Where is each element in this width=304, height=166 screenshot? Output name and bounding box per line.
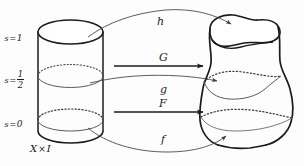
codomain-bottom-edge — [218, 145, 266, 148]
level-value-s-top: 1 — [17, 33, 23, 43]
domain-label-times: × — [37, 144, 47, 154]
level-rel-s-middle: = — [9, 76, 17, 85]
codomain-top-cap — [210, 15, 280, 46]
domain-cylinder — [38, 20, 103, 143]
map-label-F: F — [159, 98, 167, 109]
cylinder-bottom-section-front — [38, 120, 103, 131]
arrow-f — [88, 128, 226, 152]
map-label-h: h — [157, 16, 164, 27]
diagram-canvas — [0, 0, 304, 166]
map-label-G: G — [159, 52, 168, 63]
level-fraction-s-middle: 1 2 — [17, 70, 24, 89]
level-rel-s-bottom: = — [9, 120, 17, 129]
fraction-denominator: 2 — [17, 81, 24, 90]
codomain-bottom-section-back — [201, 109, 292, 118]
domain-label: X×I — [30, 144, 51, 154]
level-value-s-bottom: 0 — [17, 119, 23, 129]
level-label-s-bottom: s=0 — [4, 120, 23, 129]
map-label-g: g — [160, 84, 167, 95]
arrow-g — [90, 75, 217, 83]
cylinder-bottom-section-back — [38, 109, 103, 120]
codomain-mid-section-front — [204, 76, 281, 99]
level-rel-s-top: = — [9, 34, 17, 43]
cylinder-mid-section-front — [38, 76, 103, 87]
cylinder-base-front — [38, 131, 103, 143]
cylinder-mid-section-back — [38, 65, 103, 76]
level-label-s-top: s=1 — [4, 34, 23, 43]
map-label-f: f — [161, 134, 165, 145]
homotopy-diagram: s=1 s= 1 2 s=0 X×I h G g F f — [0, 0, 304, 166]
fraction-numerator: 1 — [17, 70, 24, 79]
codomain-bottom-section-front — [201, 117, 292, 131]
cylinder-top-rim — [38, 20, 103, 44]
codomain-tube — [200, 15, 293, 149]
codomain-left-silhouette — [200, 29, 218, 145]
level-label-s-middle: s= 1 2 — [4, 71, 24, 90]
domain-label-i: I — [47, 143, 51, 154]
